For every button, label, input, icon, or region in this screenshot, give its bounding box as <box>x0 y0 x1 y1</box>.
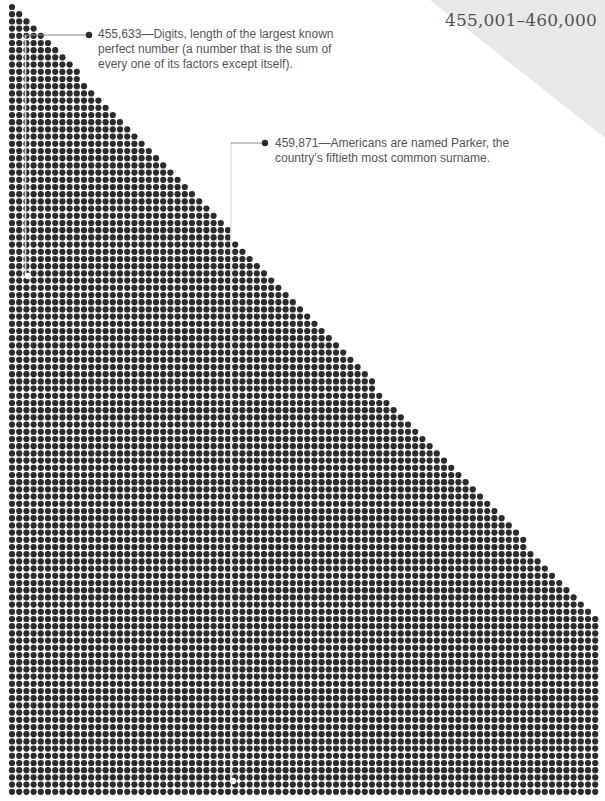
range-title: 455,001–460,000 <box>445 10 597 30</box>
annotation-line: country's fiftieth most common surname. <box>275 151 565 166</box>
annotation-line: 455,633—Digits, length of the largest kn… <box>98 27 368 42</box>
annotation-line: 459,871—Americans are named Parker, the <box>275 136 565 151</box>
dot-grid <box>0 0 605 801</box>
annotation-line: every one of its factors except itself). <box>98 57 368 72</box>
annotation-perfect-number: 455,633—Digits, length of the largest kn… <box>98 27 368 72</box>
annotation-line: perfect number (a number that is the sum… <box>98 42 368 57</box>
annotation-parker-surname: 459,871—Americans are named Parker, the … <box>275 136 565 166</box>
